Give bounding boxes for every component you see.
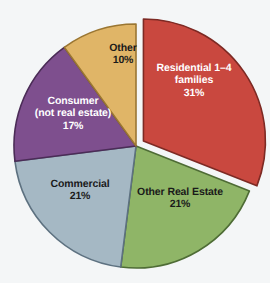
pie-slice-commercial[interactable] <box>15 146 136 267</box>
pie-chart-canvas <box>0 0 270 283</box>
pie-chart: Residential 1–4 families 31% Other Real … <box>0 0 270 283</box>
pie-slices <box>14 19 265 268</box>
